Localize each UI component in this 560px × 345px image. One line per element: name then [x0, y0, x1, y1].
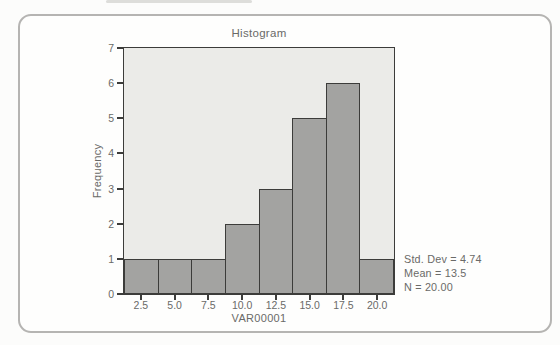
- histogram-bar: [225, 224, 260, 294]
- stat-line-std-dev: Std. Dev = 4.74: [404, 252, 482, 266]
- y-tick-label: 3: [90, 183, 114, 195]
- bars-container: [124, 48, 394, 294]
- x-tick-mark: [275, 295, 277, 300]
- x-tick-mark: [241, 295, 243, 300]
- y-tick-mark: [117, 47, 123, 49]
- y-tick-mark: [117, 152, 123, 154]
- x-tick-label: 20.0: [360, 299, 394, 311]
- x-axis-label: VAR00001: [159, 312, 359, 324]
- x-tick-label: 15.0: [293, 299, 327, 311]
- x-tick-mark: [174, 295, 176, 300]
- y-tick-label: 6: [90, 77, 114, 89]
- x-tick-label: 12.5: [259, 299, 293, 311]
- histogram-bar: [191, 259, 226, 294]
- histogram-bar: [292, 118, 327, 294]
- scanned-page: Histogram Frequency 01234567 2.55.07.510…: [0, 0, 560, 345]
- x-tick-label: 2.5: [124, 299, 158, 311]
- x-tick-label: 5.0: [158, 299, 192, 311]
- y-tick-mark: [117, 293, 123, 295]
- y-tick-label: 4: [90, 147, 114, 159]
- histogram-bar: [158, 259, 193, 294]
- stat-line-n: N = 20.00: [404, 280, 482, 294]
- y-tick-mark: [117, 188, 123, 190]
- plot-area: [123, 47, 395, 295]
- y-tick-mark: [117, 223, 123, 225]
- y-tick-mark: [117, 117, 123, 119]
- histogram-bar: [359, 259, 394, 294]
- x-tick-mark: [140, 295, 142, 300]
- y-tick-label: 1: [90, 253, 114, 265]
- histogram-bar: [326, 83, 361, 294]
- stats-block: Std. Dev = 4.74 Mean = 13.5 N = 20.00: [404, 252, 482, 295]
- stat-line-mean: Mean = 13.5: [404, 266, 482, 280]
- y-tick-label: 5: [90, 112, 114, 124]
- y-tick-label: 2: [90, 218, 114, 230]
- x-tick-label: 7.5: [191, 299, 225, 311]
- y-tick-label: 0: [90, 288, 114, 300]
- y-tick-label: 7: [90, 42, 114, 54]
- chart-title: Histogram: [159, 27, 359, 39]
- x-tick-mark: [309, 295, 311, 300]
- x-tick-mark: [342, 295, 344, 300]
- y-tick-mark: [117, 258, 123, 260]
- y-tick-mark: [117, 82, 123, 84]
- x-tick-label: 10.0: [225, 299, 259, 311]
- x-tick-label: 17.5: [326, 299, 360, 311]
- histogram-bar: [124, 259, 159, 294]
- histogram-bar: [259, 189, 294, 294]
- scan-crop-artifact: [106, 0, 252, 3]
- x-tick-mark: [207, 295, 209, 300]
- x-tick-mark: [376, 295, 378, 300]
